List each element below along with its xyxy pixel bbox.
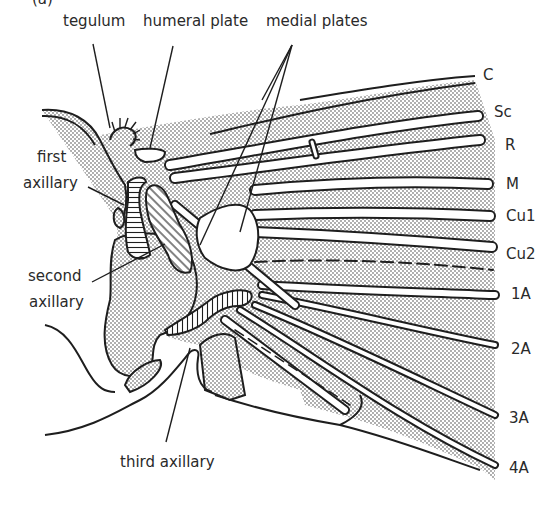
vein-label-3a: 3A: [509, 409, 529, 427]
panel-mark: (a): [32, 0, 53, 8]
label-tegulum: tegulum: [63, 12, 125, 30]
vein-label-c: C: [483, 66, 493, 84]
wing-base-diagram: (a) tegulum humeral plate medial plates …: [0, 0, 557, 509]
label-first-axillary-line1: first: [37, 148, 66, 166]
label-humeral-plate: humeral plate: [143, 12, 248, 30]
vein-label-r: R: [505, 136, 515, 154]
label-second-axillary-line1: second: [28, 267, 82, 285]
vein-label-cu2: Cu2: [506, 245, 536, 263]
vein-label-1a: 1A: [511, 285, 531, 303]
vein-label-4a: 4A: [509, 459, 529, 477]
vein-label-sc: Sc: [494, 103, 512, 121]
vein-label-m: M: [506, 175, 519, 193]
wing-illustration: [0, 0, 557, 509]
label-third-axillary: third axillary: [120, 453, 215, 471]
label-first-axillary-line2: axillary: [23, 174, 78, 192]
vein-label-cu1: Cu1: [506, 207, 536, 225]
vein-label-2a: 2A: [511, 340, 531, 358]
label-medial-plates: medial plates: [266, 12, 367, 30]
label-second-axillary-line2: axillary: [29, 293, 84, 311]
